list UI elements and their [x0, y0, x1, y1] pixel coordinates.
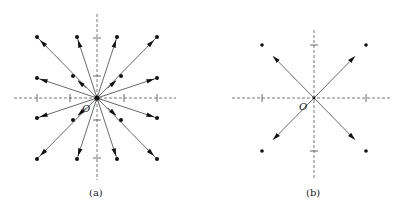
lattice-point [155, 76, 159, 80]
lattice-point [155, 116, 159, 120]
lattice-point [364, 149, 368, 153]
displacement-arrow [114, 41, 116, 47]
caption-a: (a) [89, 187, 103, 198]
lattice-point [71, 74, 75, 78]
origin-label: O [299, 101, 307, 112]
displacement-arrow [114, 149, 116, 155]
lattice-point [119, 74, 123, 78]
lattice-point [155, 35, 159, 39]
lattice-point [115, 157, 119, 161]
lattice-point [115, 35, 119, 39]
displacement-arrow [314, 98, 355, 139]
displacement-arrow [147, 149, 153, 155]
lattice-point [119, 118, 123, 122]
lattice-point [260, 149, 264, 153]
displacement-arrow [108, 108, 116, 115]
caption-b: (b) [306, 187, 320, 198]
origin-label: O [82, 103, 90, 114]
displacement-arrow [147, 115, 153, 117]
displacement-arrow [273, 98, 314, 139]
origin-point [313, 97, 316, 100]
lattice-point [155, 157, 159, 161]
displacement-arrow [78, 81, 86, 88]
panel-b: O (b) [232, 30, 392, 198]
displacement-arrow [78, 41, 80, 47]
lattice-point [71, 118, 75, 122]
lattice-point [35, 76, 39, 80]
lattice-point [35, 35, 39, 39]
lattice-point [364, 43, 368, 47]
lattice-point [35, 157, 39, 161]
panel-a: O (a) [14, 14, 176, 198]
displacement-arrow [147, 79, 153, 81]
lattice-point [75, 35, 79, 39]
displacement-arrow [273, 57, 314, 98]
displacement-arrow [41, 149, 47, 155]
origin-point [94, 95, 99, 100]
lattice-point [75, 157, 79, 161]
displacement-arrow [41, 79, 47, 81]
displacement-arrow [108, 81, 116, 88]
displacement-arrow [147, 41, 153, 47]
displacement-arrow [41, 41, 47, 47]
displacement-arrow [314, 57, 355, 98]
figure: O (a) O (b) [0, 0, 400, 210]
displacement-arrow [41, 115, 47, 117]
lattice-point [35, 116, 39, 120]
lattice-point [260, 43, 264, 47]
displacement-arrow [78, 149, 80, 155]
